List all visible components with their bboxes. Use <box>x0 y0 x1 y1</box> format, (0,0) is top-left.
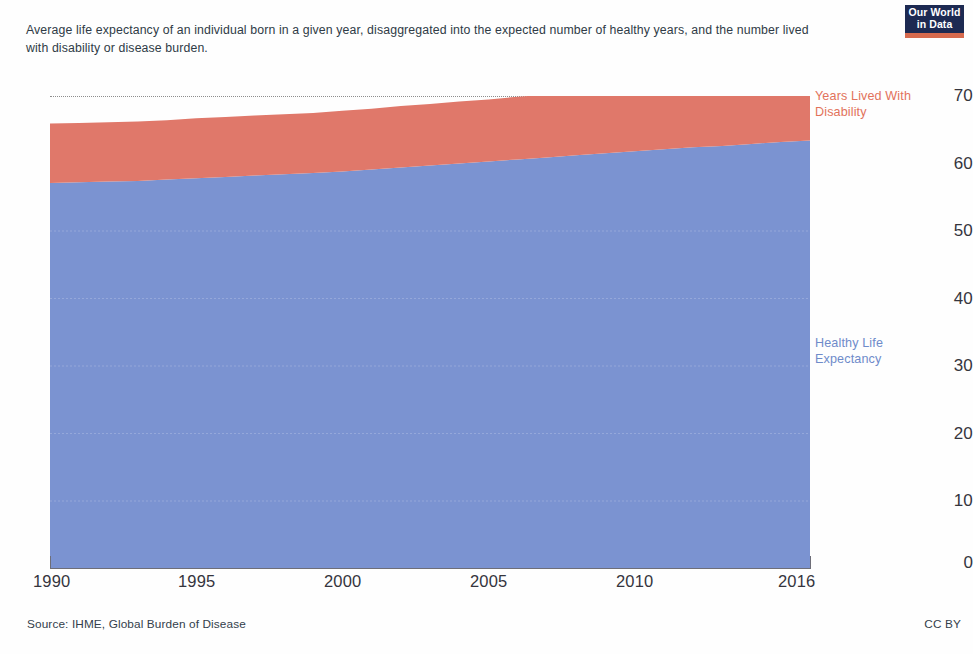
area-bands-svg <box>50 96 810 568</box>
x-axis-line <box>50 568 811 569</box>
y-tick-label-0: 0 <box>939 553 973 573</box>
x-tick-label-2016: 2016 <box>778 572 815 591</box>
y-tick-label-60: 60 <box>939 154 973 174</box>
y-tick-label-20: 20 <box>939 424 973 444</box>
x-axis-tick-end <box>810 556 811 569</box>
x-tick-label-1990: 1990 <box>33 572 70 591</box>
legend-label-years-lived-with-disability: Years Lived With Disability <box>815 89 911 120</box>
license-text[interactable]: CC BY <box>924 617 961 631</box>
stacked-area-chart: 70 60 50 40 30 20 10 0 <box>0 0 973 654</box>
y-tick-label-70: 70 <box>939 86 973 106</box>
legend-label-healthy-life-expectancy: Healthy Life Expectancy <box>815 336 883 367</box>
y-tick-label-30: 30 <box>939 356 973 376</box>
source-text: Source: IHME, Global Burden of Disease <box>27 617 246 631</box>
x-tick-label-1995: 1995 <box>178 572 215 591</box>
x-tick-label-2005: 2005 <box>470 572 507 591</box>
y-tick-label-40: 40 <box>939 289 973 309</box>
plot-area <box>50 96 810 568</box>
y-tick-label-50: 50 <box>939 221 973 241</box>
x-tick-label-2010: 2010 <box>616 572 653 591</box>
y-axis-tick-origin <box>50 556 51 569</box>
y-tick-label-10: 10 <box>939 491 973 511</box>
area-healthy-life-expectancy <box>50 141 810 569</box>
x-tick-label-2000: 2000 <box>324 572 361 591</box>
